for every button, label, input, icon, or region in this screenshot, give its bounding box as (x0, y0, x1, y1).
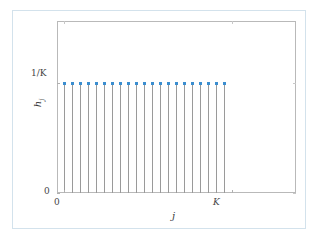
stem-marker (111, 82, 114, 85)
ytick-label-0: 0 (44, 187, 50, 196)
stem-line (208, 83, 209, 193)
stem-marker (87, 82, 90, 85)
stem-line (200, 83, 201, 193)
plot-area (57, 21, 296, 193)
y-axis-tick-right (293, 193, 296, 194)
x-axis-tick (64, 190, 65, 193)
stem-line (128, 83, 129, 193)
stem-marker (183, 82, 186, 85)
stem-line (184, 83, 185, 193)
ytick-label-1overK: 1/K (31, 69, 46, 78)
stem-marker (207, 82, 210, 85)
stem-marker (79, 82, 82, 85)
stem-marker (191, 82, 194, 85)
stem-line (104, 83, 105, 193)
stem-marker (143, 82, 146, 85)
y-axis-title: hj (32, 86, 46, 120)
stem-marker (159, 82, 162, 85)
stem-marker (215, 82, 218, 85)
stem-marker (167, 82, 170, 85)
stem-line (88, 83, 89, 193)
stem-line (216, 83, 217, 193)
stem-marker (95, 82, 98, 85)
xtick-label-0: 0 (54, 198, 60, 207)
stem-marker (63, 82, 66, 85)
stem-marker (127, 82, 130, 85)
stem-line (224, 83, 225, 193)
x-axis-tick-top (232, 21, 233, 24)
stem-line (72, 83, 73, 193)
stem-line (144, 83, 145, 193)
stem-marker (135, 82, 138, 85)
stem-line (168, 83, 169, 193)
x-axis-title: j (172, 210, 175, 221)
stem-marker (151, 82, 154, 85)
figure-canvas: 0 1/K 0 K j hj (0, 0, 319, 239)
stem-line (160, 83, 161, 193)
y-axis-tick (57, 83, 60, 84)
stem-line (136, 83, 137, 193)
stem-line (80, 83, 81, 193)
stem-marker (199, 82, 202, 85)
x-axis-tick (232, 190, 233, 193)
stem-marker (71, 82, 74, 85)
y-axis-tick-right (293, 83, 296, 84)
stem-line (112, 83, 113, 193)
stem-line (176, 83, 177, 193)
stem-line (64, 83, 65, 193)
stem-line (120, 83, 121, 193)
stem-marker (119, 82, 122, 85)
x-axis-tick-top (64, 21, 65, 24)
xtick-label-K: K (213, 198, 220, 207)
stem-line (96, 83, 97, 193)
stem-line (192, 83, 193, 193)
stem-marker (103, 82, 106, 85)
stem-line (152, 83, 153, 193)
stem-marker (223, 82, 226, 85)
stem-marker (175, 82, 178, 85)
y-axis-tick (57, 193, 60, 194)
